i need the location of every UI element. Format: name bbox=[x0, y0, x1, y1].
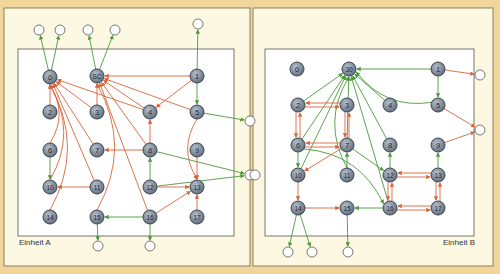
external-node-eA9[interactable] bbox=[145, 241, 155, 251]
node-b-8[interactable]: 8 bbox=[383, 138, 397, 152]
node-label: 6 bbox=[48, 146, 52, 155]
node-a-13[interactable]: 13 bbox=[190, 180, 204, 194]
panel-a-label: Einheit A bbox=[19, 238, 51, 247]
node-b-17[interactable]: 17 bbox=[431, 201, 445, 215]
node-label: 4 bbox=[148, 108, 152, 117]
node-a-17[interactable]: 17 bbox=[190, 210, 204, 224]
node-label: 10 bbox=[294, 172, 302, 179]
node-label: 4 bbox=[388, 101, 392, 110]
diagram-canvas: 0SC1234567891011121314151617030123456789… bbox=[0, 0, 500, 274]
node-label: 1 bbox=[195, 72, 199, 81]
node-label: 16 bbox=[146, 214, 154, 221]
node-label: 30 bbox=[345, 66, 353, 73]
node-label: 9 bbox=[436, 141, 440, 150]
node-label: 12 bbox=[386, 172, 394, 179]
node-label: 12 bbox=[146, 184, 154, 191]
node-label: 10 bbox=[46, 184, 54, 191]
node-b-12[interactable]: 12 bbox=[383, 168, 397, 182]
node-label: 17 bbox=[193, 214, 201, 221]
node-b-5[interactable]: 5 bbox=[431, 98, 445, 112]
node-label: 11 bbox=[94, 184, 101, 191]
node-label: 14 bbox=[46, 214, 54, 221]
node-label: 3 bbox=[345, 101, 349, 110]
external-node-eB4[interactable] bbox=[283, 247, 293, 257]
external-node-eA4[interactable] bbox=[110, 25, 120, 35]
node-b-3[interactable]: 3 bbox=[340, 98, 354, 112]
node-b-13[interactable]: 13 bbox=[431, 168, 445, 182]
node-b-1[interactable]: 1 bbox=[431, 62, 445, 76]
node-label: SC bbox=[92, 73, 101, 80]
node-label: 16 bbox=[386, 205, 394, 212]
node-label: 7 bbox=[95, 146, 99, 155]
external-node-eB1[interactable] bbox=[475, 70, 485, 80]
node-a-SC[interactable]: SC bbox=[90, 69, 104, 83]
external-node-eB5[interactable] bbox=[307, 247, 317, 257]
node-a-16[interactable]: 16 bbox=[143, 210, 157, 224]
node-a-1[interactable]: 1 bbox=[190, 69, 204, 83]
node-label: 6 bbox=[296, 141, 300, 150]
node-label: 2 bbox=[296, 101, 300, 110]
node-a-5[interactable]: 5 bbox=[190, 105, 204, 119]
node-b-9[interactable]: 9 bbox=[431, 138, 445, 152]
node-label: 14 bbox=[294, 205, 302, 212]
node-b-6[interactable]: 6 bbox=[291, 138, 305, 152]
node-label: 15 bbox=[343, 205, 351, 212]
external-node-eA6[interactable] bbox=[245, 116, 255, 126]
node-a-9[interactable]: 9 bbox=[190, 143, 204, 157]
node-a-11[interactable]: 11 bbox=[90, 180, 104, 194]
node-b-11[interactable]: 11 bbox=[340, 168, 354, 182]
node-label: 13 bbox=[434, 172, 442, 179]
node-label: 15 bbox=[93, 214, 101, 221]
node-label: 9 bbox=[195, 146, 199, 155]
external-node-eA3[interactable] bbox=[83, 25, 93, 35]
node-a-3[interactable]: 3 bbox=[90, 105, 104, 119]
node-b-14[interactable]: 14 bbox=[291, 201, 305, 215]
node-a-7[interactable]: 7 bbox=[90, 143, 104, 157]
panel-b-label: Einheit B bbox=[443, 238, 475, 247]
node-a-6[interactable]: 6 bbox=[43, 143, 57, 157]
node-label: 2 bbox=[48, 108, 52, 117]
external-node-eB6[interactable] bbox=[343, 247, 353, 257]
node-a-2[interactable]: 2 bbox=[43, 105, 57, 119]
node-b-15[interactable]: 15 bbox=[340, 201, 354, 215]
node-a-15[interactable]: 15 bbox=[90, 210, 104, 224]
node-a-4[interactable]: 4 bbox=[143, 105, 157, 119]
external-node-eA1[interactable] bbox=[34, 25, 44, 35]
edge-a-15-to-eA8 bbox=[97, 224, 98, 240]
node-a-8[interactable]: 8 bbox=[143, 143, 157, 157]
node-a-14[interactable]: 14 bbox=[43, 210, 57, 224]
external-node-eB3[interactable] bbox=[250, 170, 260, 180]
node-b-7[interactable]: 7 bbox=[340, 138, 354, 152]
node-b-4[interactable]: 4 bbox=[383, 98, 397, 112]
node-label: 17 bbox=[434, 205, 442, 212]
node-label: 11 bbox=[344, 172, 351, 179]
node-b-2[interactable]: 2 bbox=[291, 98, 305, 112]
node-label: 13 bbox=[193, 184, 201, 191]
node-label: 5 bbox=[195, 108, 199, 117]
node-a-10[interactable]: 10 bbox=[43, 180, 57, 194]
node-b-10[interactable]: 10 bbox=[291, 168, 305, 182]
node-a-0[interactable]: 0 bbox=[43, 70, 57, 84]
external-node-eA5[interactable] bbox=[193, 19, 203, 29]
node-b-16[interactable]: 16 bbox=[383, 201, 397, 215]
node-label: 3 bbox=[95, 108, 99, 117]
node-label: 5 bbox=[436, 101, 440, 110]
external-node-eA8[interactable] bbox=[93, 241, 103, 251]
node-b-0[interactable]: 0 bbox=[290, 62, 304, 76]
node-label: 8 bbox=[148, 146, 152, 155]
node-label: 1 bbox=[436, 65, 440, 74]
node-b-30[interactable]: 30 bbox=[342, 62, 356, 76]
node-label: 0 bbox=[48, 73, 52, 82]
external-node-eB2[interactable] bbox=[475, 125, 485, 135]
external-node-eA2[interactable] bbox=[55, 25, 65, 35]
node-a-12[interactable]: 12 bbox=[143, 180, 157, 194]
node-label: 0 bbox=[295, 65, 299, 74]
node-label: 7 bbox=[345, 141, 349, 150]
node-label: 8 bbox=[388, 141, 392, 150]
